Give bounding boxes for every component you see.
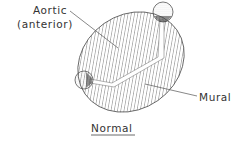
- mitral-valve-diagram: Aortic (anterior) Mural Normal: [0, 0, 238, 142]
- aortic-label: Aortic: [33, 4, 67, 16]
- valve-body: [58, 0, 204, 133]
- papillary-muscle-top: [153, 2, 173, 22]
- leaflet-area: [58, 0, 204, 133]
- caption: Normal: [91, 122, 133, 134]
- aortic-sublabel: (anterior): [17, 18, 73, 30]
- mural-label: Mural: [199, 91, 231, 103]
- papillary-muscle-left: [75, 71, 93, 89]
